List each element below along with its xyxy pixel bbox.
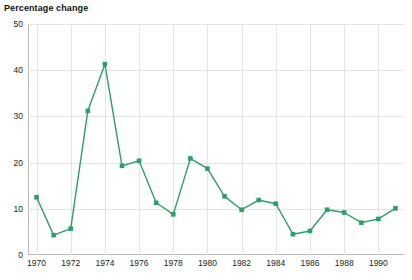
data-point-marker	[188, 156, 193, 161]
data-point-marker	[51, 233, 56, 238]
data-point-marker	[256, 198, 261, 203]
data-point-marker	[103, 62, 108, 67]
data-point-marker	[342, 210, 347, 215]
series-polyline	[37, 64, 396, 235]
data-point-marker	[68, 226, 73, 231]
data-point-marker	[393, 206, 398, 211]
data-point-marker	[325, 207, 330, 212]
y-tick-label: 0	[18, 250, 23, 260]
data-point-marker	[205, 166, 210, 171]
data-point-marker	[291, 232, 296, 237]
data-point-marker	[154, 200, 159, 205]
x-tick-label: 1976	[130, 258, 149, 268]
data-point-marker	[120, 164, 125, 169]
data-point-marker	[376, 217, 381, 222]
y-tick-label: 10	[14, 204, 23, 214]
data-point-marker	[239, 207, 244, 212]
y-tick-label: 40	[14, 65, 23, 75]
x-tick-label: 1986	[301, 258, 320, 268]
x-tick-label: 1974	[95, 258, 114, 268]
data-point-marker	[86, 109, 91, 114]
x-tick-label: 1978	[164, 258, 183, 268]
x-tick-label: 1980	[198, 258, 217, 268]
data-point-marker	[222, 194, 227, 199]
chart-title: Percentage change	[4, 3, 88, 13]
x-tick-label: 1984	[266, 258, 285, 268]
x-axis-tick-labels: 1970197219741976197819801982198419861988…	[28, 258, 404, 272]
x-tick-label: 1982	[232, 258, 251, 268]
plot-area	[28, 24, 404, 255]
y-tick-label: 50	[14, 19, 23, 29]
data-point-marker	[34, 195, 39, 200]
data-point-marker	[137, 158, 142, 163]
data-point-marker	[274, 201, 279, 206]
chart-container: Percentage change 01020304050 1970197219…	[0, 0, 412, 280]
data-point-marker	[359, 220, 364, 225]
x-tick-label: 1990	[369, 258, 388, 268]
data-point-marker	[308, 229, 313, 234]
x-tick-label: 1988	[335, 258, 354, 268]
y-axis-tick-labels: 01020304050	[0, 24, 23, 255]
y-tick-label: 30	[14, 111, 23, 121]
data-point-marker	[171, 212, 176, 217]
x-tick-label: 1972	[61, 258, 80, 268]
y-tick-label: 20	[14, 158, 23, 168]
x-tick-label: 1970	[27, 258, 46, 268]
series-line-percentage-change	[28, 24, 404, 255]
